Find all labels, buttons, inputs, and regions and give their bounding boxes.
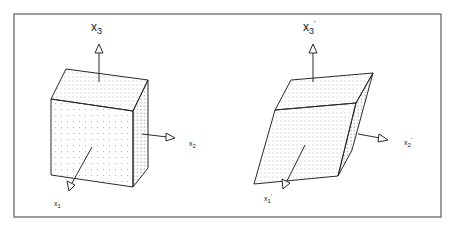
- cube: [51, 69, 148, 187]
- x2-prime-axis-arrow: [358, 134, 388, 142]
- x3-prime-axis-arrow: [309, 44, 317, 82]
- x1-prime-label: x1': [264, 193, 272, 204]
- x3-label: x3: [91, 20, 102, 36]
- x2-prime-label: x2': [404, 137, 412, 148]
- x3-prime-label: x3': [303, 19, 316, 36]
- deformation-figure: x3 x2 x1 x3' x2': [0, 0, 452, 227]
- x2-label: x2: [189, 140, 197, 149]
- cube-front-face: [51, 99, 133, 187]
- sheared-parallelepiped: [254, 73, 373, 184]
- x1-label: x1: [54, 200, 62, 209]
